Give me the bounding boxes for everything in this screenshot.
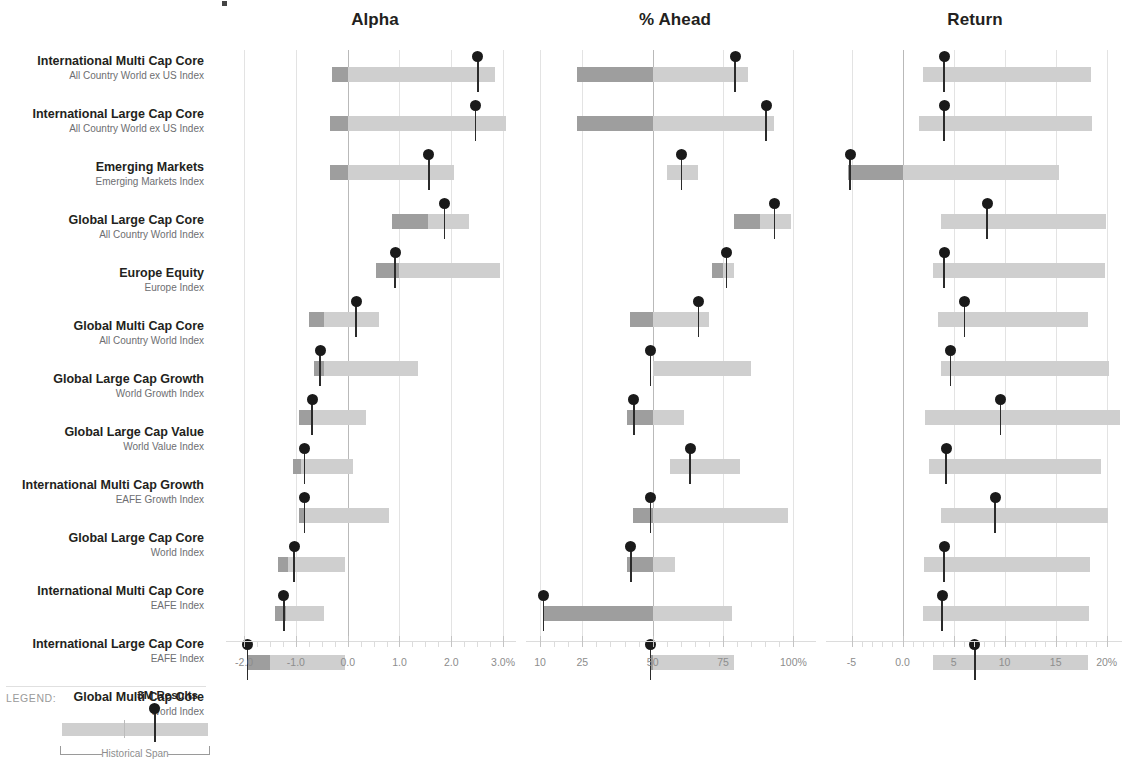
row-label: International Multi Cap CoreEAFE Index bbox=[0, 584, 212, 633]
axis-tick-label: 25 bbox=[560, 656, 604, 668]
axis-tick-minor bbox=[374, 641, 375, 647]
historical-span-bar bbox=[314, 361, 418, 376]
result-marker-dot[interactable] bbox=[645, 492, 656, 503]
result-marker-dot[interactable] bbox=[390, 247, 401, 258]
historical-span-bar-lower bbox=[309, 312, 325, 327]
result-marker-dot[interactable] bbox=[289, 541, 300, 552]
result-marker-dot[interactable] bbox=[351, 296, 362, 307]
axis-tick-minor bbox=[1025, 641, 1026, 647]
result-marker-dot[interactable] bbox=[423, 149, 434, 160]
plot-row bbox=[826, 344, 1122, 393]
plot-row bbox=[826, 295, 1122, 344]
result-marker-dot[interactable] bbox=[538, 590, 549, 601]
legend-bar-fill bbox=[62, 723, 208, 736]
plot-row bbox=[526, 148, 816, 197]
result-marker-dot[interactable] bbox=[470, 100, 481, 111]
result-marker-dot[interactable] bbox=[761, 100, 772, 111]
row-label: Emerging MarketsEmerging Markets Index bbox=[0, 160, 212, 209]
row-label-index: EAFE Index bbox=[0, 599, 204, 612]
result-marker-dot[interactable] bbox=[945, 345, 956, 356]
result-marker-dot[interactable] bbox=[685, 443, 696, 454]
historical-span-bar-lower bbox=[330, 165, 348, 180]
row-label-name: Global Large Cap Core bbox=[0, 531, 204, 546]
result-marker-dot[interactable] bbox=[439, 198, 450, 209]
result-marker-dot[interactable] bbox=[628, 394, 639, 405]
result-marker-dot[interactable] bbox=[941, 443, 952, 454]
plot-row bbox=[226, 246, 516, 295]
axis-tick-minor bbox=[737, 641, 738, 647]
plot-row bbox=[826, 540, 1122, 589]
result-marker-dot[interactable] bbox=[472, 51, 483, 62]
result-marker-dot[interactable] bbox=[299, 443, 310, 454]
axis-tick-minor bbox=[361, 641, 362, 647]
plot-row bbox=[526, 50, 816, 99]
result-marker-dot[interactable] bbox=[278, 590, 289, 601]
row-label-index: World Index bbox=[0, 546, 204, 559]
result-marker-dot[interactable] bbox=[995, 394, 1006, 405]
historical-span-bar bbox=[332, 67, 495, 82]
historical-span-bar bbox=[941, 508, 1107, 523]
axis-tick-major bbox=[582, 636, 583, 647]
plot-row bbox=[526, 295, 816, 344]
plot-row bbox=[526, 589, 816, 638]
plot-row bbox=[826, 442, 1122, 491]
axis-tick-minor bbox=[681, 641, 682, 647]
result-marker-dot[interactable] bbox=[959, 296, 970, 307]
row-label: Global Large Cap CoreAll Country World I… bbox=[0, 213, 212, 262]
column-header-ahead: % Ahead bbox=[530, 10, 820, 30]
historical-span-bar bbox=[941, 361, 1108, 376]
result-marker-dot[interactable] bbox=[939, 247, 950, 258]
result-marker-dot[interactable] bbox=[645, 345, 656, 356]
axis-tick-label: 5 bbox=[932, 656, 976, 668]
result-marker-dot[interactable] bbox=[939, 51, 950, 62]
row-label-name: Global Multi Cap Core bbox=[0, 319, 204, 334]
legend-span-bracket: Historical Span bbox=[60, 746, 210, 762]
historical-span-bar-lower bbox=[332, 67, 348, 82]
result-marker-dot[interactable] bbox=[315, 345, 326, 356]
row-label-name: Global Large Cap Value bbox=[0, 425, 204, 440]
axis-tick-minor bbox=[639, 641, 640, 647]
axis-tick-minor bbox=[964, 641, 965, 647]
result-marker-dot[interactable] bbox=[939, 541, 950, 552]
axis-tick-minor bbox=[667, 641, 668, 647]
result-marker-dot[interactable] bbox=[845, 149, 856, 160]
historical-span-bar bbox=[924, 557, 1090, 572]
result-marker-dot[interactable] bbox=[730, 51, 741, 62]
row-label: Global Large Cap CoreWorld Index bbox=[0, 531, 212, 580]
result-marker-dot[interactable] bbox=[937, 590, 948, 601]
axis-tick-major bbox=[451, 636, 452, 647]
result-marker-dot[interactable] bbox=[676, 149, 687, 160]
plot-row bbox=[826, 491, 1122, 540]
result-marker-dot[interactable] bbox=[939, 100, 950, 111]
result-marker-dot[interactable] bbox=[990, 492, 1001, 503]
axis-tick-minor bbox=[438, 641, 439, 647]
row-label-index: EAFE Index bbox=[0, 652, 204, 665]
result-marker-dot[interactable] bbox=[982, 198, 993, 209]
plot-row bbox=[226, 197, 516, 246]
result-marker-dot[interactable] bbox=[693, 296, 704, 307]
result-marker-dot[interactable] bbox=[721, 247, 732, 258]
legend-bar-sample bbox=[62, 718, 208, 740]
row-label-name: Europe Equity bbox=[0, 266, 204, 281]
axis-tick-label: 15 bbox=[1034, 656, 1078, 668]
historical-span-bar bbox=[923, 67, 1091, 82]
historical-span-bar-lower bbox=[543, 606, 653, 621]
axis-tick-minor bbox=[943, 641, 944, 647]
plot-row bbox=[826, 197, 1122, 246]
plot-row bbox=[226, 148, 516, 197]
result-marker-dot[interactable] bbox=[769, 198, 780, 209]
result-marker-dot[interactable] bbox=[307, 394, 318, 405]
axis-tick-minor bbox=[322, 641, 323, 647]
axis-tick-major bbox=[296, 636, 297, 647]
axis-tick-minor bbox=[892, 641, 893, 647]
axis-tick-minor bbox=[994, 641, 995, 647]
axis-tick-minor bbox=[554, 641, 555, 647]
plot-row bbox=[526, 99, 816, 148]
row-label-name: International Multi Cap Growth bbox=[0, 478, 204, 493]
axis-tick-label: 0.0 bbox=[881, 656, 925, 668]
axis-tick-label: 50 bbox=[631, 656, 675, 668]
result-marker-dot[interactable] bbox=[625, 541, 636, 552]
result-marker-dot[interactable] bbox=[299, 492, 310, 503]
plot-row bbox=[826, 246, 1122, 295]
historical-span-bar-lower bbox=[630, 312, 653, 327]
